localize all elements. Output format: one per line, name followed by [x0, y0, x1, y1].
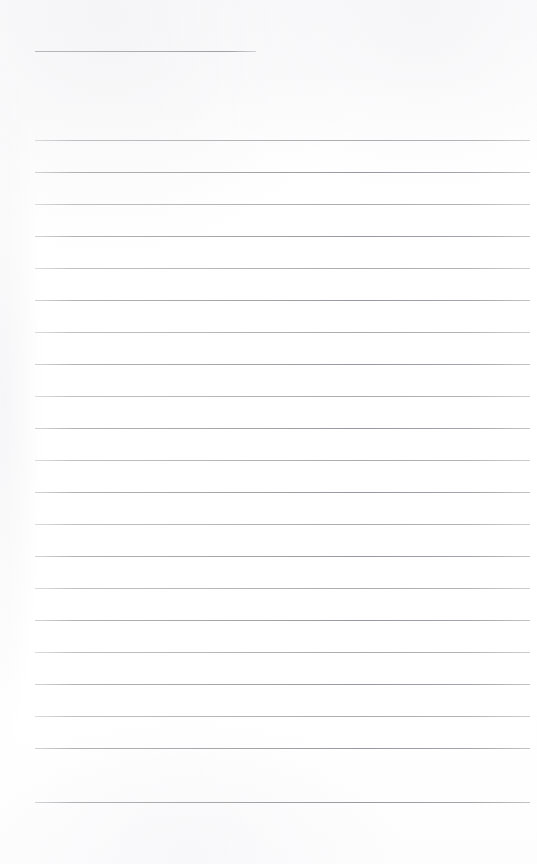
ruled-line: [35, 268, 530, 269]
note-page: [0, 0, 537, 864]
ruled-line: [35, 716, 530, 717]
ruled-line: [35, 172, 530, 173]
title-rule-line: [35, 51, 256, 52]
paper-texture: [0, 0, 537, 864]
ruled-line: [35, 652, 530, 653]
ruled-line: [35, 396, 530, 397]
ruled-line: [35, 460, 530, 461]
ruled-line: [35, 492, 530, 493]
ruled-line: [35, 748, 530, 749]
ruled-line: [35, 524, 530, 525]
ruled-line: [35, 428, 530, 429]
ruled-line: [35, 802, 530, 803]
ruled-line: [35, 588, 530, 589]
ruled-line: [35, 684, 530, 685]
ruled-line: [35, 332, 530, 333]
ruled-line: [35, 300, 530, 301]
ruled-line: [35, 236, 530, 237]
ruled-line: [35, 620, 530, 621]
ruled-line: [35, 364, 530, 365]
ruled-line: [35, 556, 530, 557]
ruled-line: [35, 204, 530, 205]
ruled-line: [35, 140, 530, 141]
